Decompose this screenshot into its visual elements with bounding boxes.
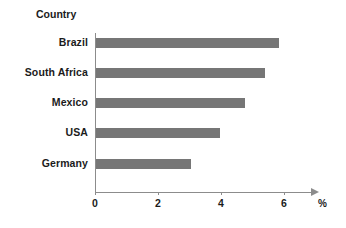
bar-south-africa xyxy=(95,68,265,78)
x-tick-label-6: 6 xyxy=(272,197,296,210)
category-label-brazil: Brazil xyxy=(59,36,88,48)
x-tick-label-2: 2 xyxy=(146,197,170,210)
bar-germany xyxy=(95,159,191,169)
category-label-south-africa: South Africa xyxy=(25,66,88,78)
bar-chart: Country Brazil South Africa Mexico USA G… xyxy=(0,0,346,228)
category-label-mexico: Mexico xyxy=(52,96,88,108)
bar-mexico xyxy=(95,98,245,108)
bar-brazil xyxy=(95,38,279,48)
x-tick-mark-4 xyxy=(221,192,222,195)
bar-usa xyxy=(95,128,220,138)
category-label-germany: Germany xyxy=(42,157,88,169)
category-label-usa: USA xyxy=(66,126,88,138)
x-tick-label-4: 4 xyxy=(209,197,233,210)
x-tick-mark-0 xyxy=(95,192,96,195)
y-axis-title: Country xyxy=(36,8,76,20)
x-axis-unit-label: % xyxy=(318,198,327,210)
x-tick-mark-6 xyxy=(284,192,285,195)
y-axis-line xyxy=(95,33,96,192)
x-axis-line xyxy=(95,192,313,193)
x-tick-mark-2 xyxy=(158,192,159,195)
x-tick-label-0: 0 xyxy=(83,197,107,210)
x-axis-arrow-icon xyxy=(311,188,319,196)
plot-area xyxy=(95,33,319,192)
